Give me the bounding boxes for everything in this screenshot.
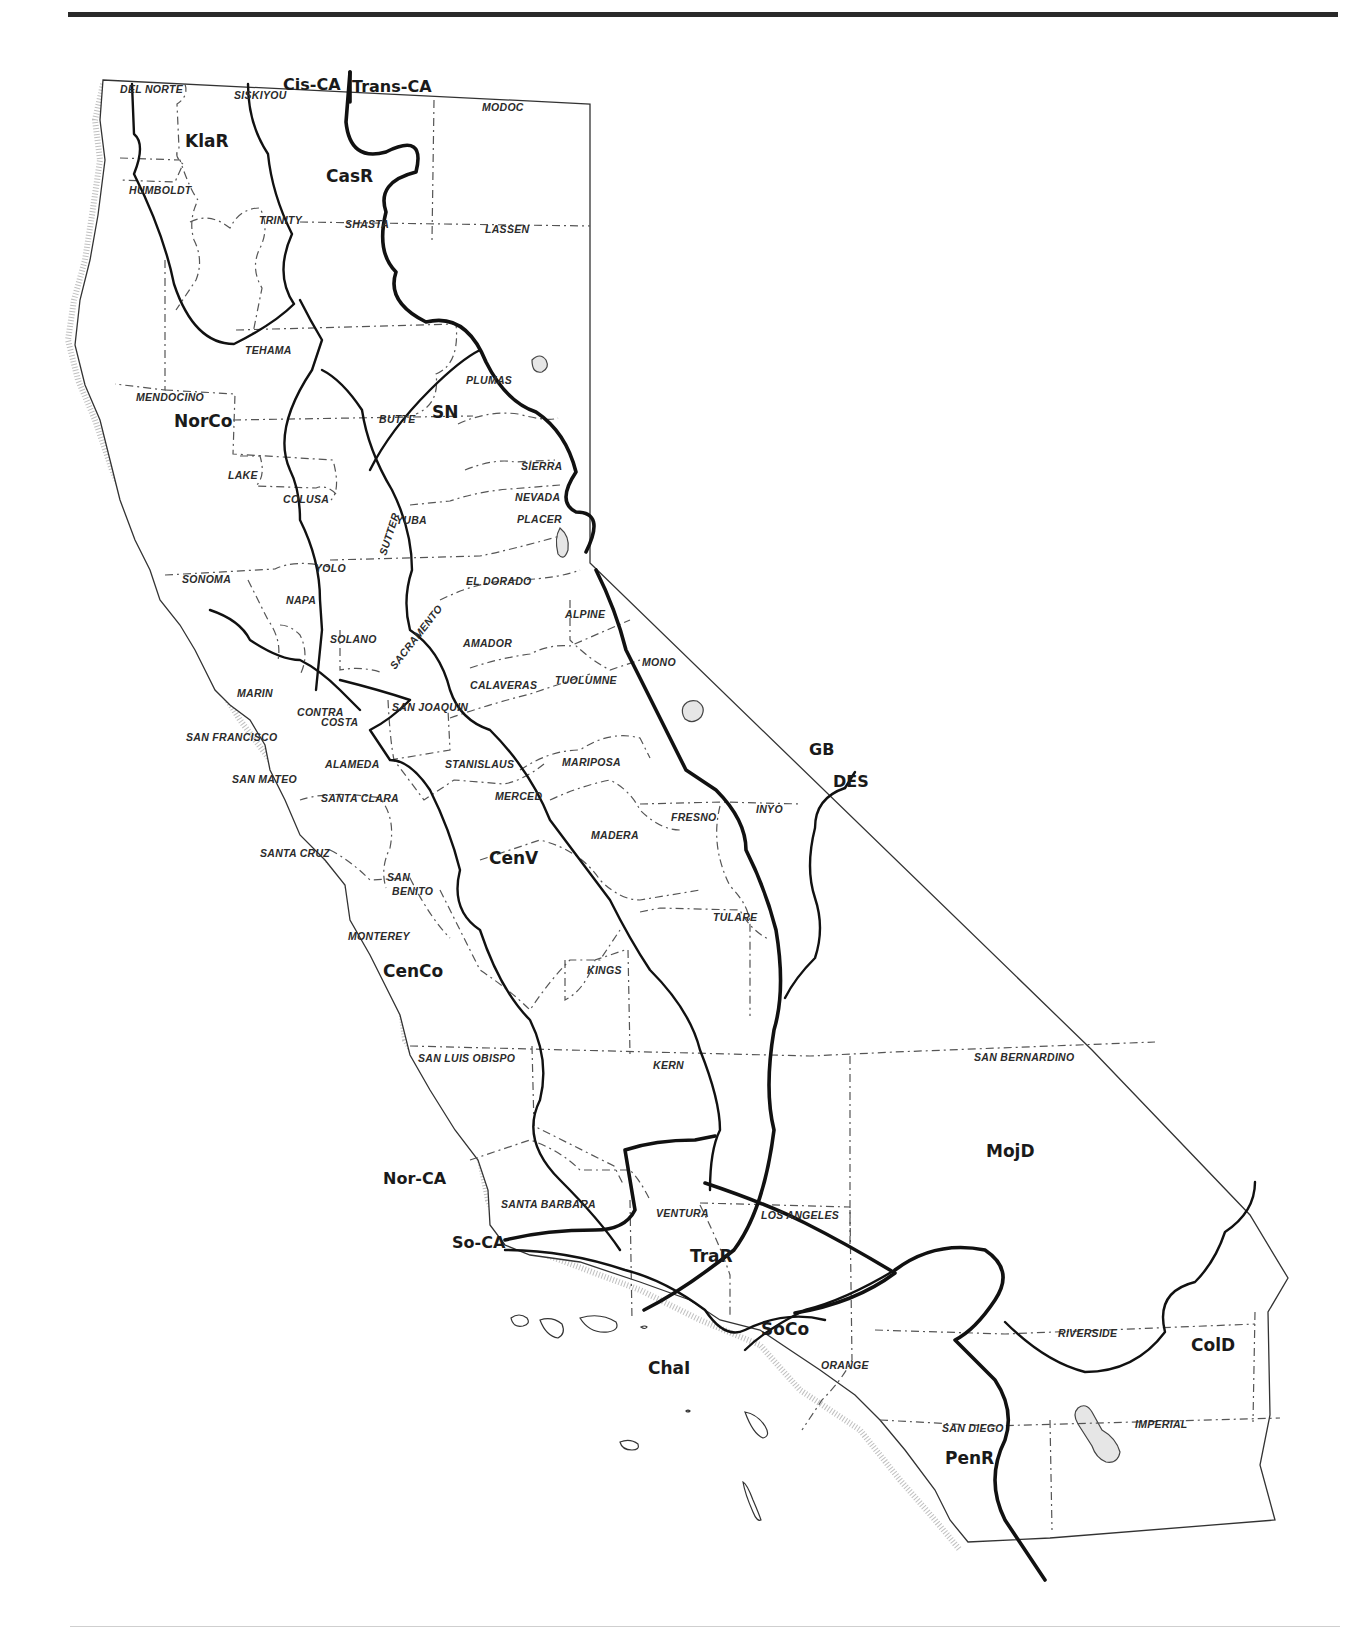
county-label: INYO <box>756 803 783 815</box>
county-label: DEL NORTE <box>120 83 184 95</box>
region-label-cold: ColD <box>1191 1335 1235 1355</box>
region-label-mojd: MojD <box>986 1141 1035 1161</box>
county-label: STANISLAUS <box>445 758 514 770</box>
county-label: NAPA <box>286 594 316 606</box>
county-label: MENDOCINO <box>136 391 204 403</box>
mono-lake <box>682 701 703 722</box>
california-map: DEL NORTE SISKIYOU MODOC HUMBOLDT TRINIT… <box>0 0 1372 1633</box>
county-label: SOLANO <box>330 633 377 645</box>
region-label-norco: NorCo <box>174 411 232 431</box>
county-label: SAN BERNARDINO <box>974 1051 1074 1063</box>
county-label: SANTA BARBARA <box>501 1198 596 1210</box>
county-label: SONOMA <box>182 573 231 585</box>
county-label: SAN DIEGO <box>942 1422 1004 1434</box>
county-label: PLACER <box>517 513 562 525</box>
region-label-casr: CasR <box>326 166 373 186</box>
county-label: PLUMAS <box>466 374 512 386</box>
island-santa-catalina <box>745 1412 768 1438</box>
county-label: NEVADA <box>515 491 560 503</box>
county-label: MADERA <box>591 829 639 841</box>
division-label-cis-ca: Cis-CA <box>283 75 341 94</box>
division-label-so-ca: So-CA <box>452 1233 506 1252</box>
county-label: KERN <box>653 1059 684 1071</box>
county-label: MARIPOSA <box>562 756 621 768</box>
division-label-nor-ca: Nor-CA <box>383 1169 447 1188</box>
county-label: BUTTE <box>379 413 416 425</box>
county-label: LAKE <box>228 469 258 481</box>
county-label: VENTURA <box>656 1207 709 1219</box>
county-label: CALAVERAS <box>470 679 537 691</box>
island-santa-barbara <box>686 1410 690 1412</box>
county-label: ALAMEDA <box>324 758 380 770</box>
county-label: SIERRA <box>521 460 562 472</box>
county-label: LASSEN <box>485 223 530 235</box>
county-label: HUMBOLDT <box>129 184 193 196</box>
division-label-gb: GB <box>809 740 834 759</box>
bottom-page-rule <box>70 1626 1340 1627</box>
county-label: LOS ANGELES <box>761 1209 839 1221</box>
county-label: COLUSA <box>283 493 329 505</box>
county-label: COSTA <box>321 716 358 728</box>
island-santa-cruz <box>580 1316 617 1332</box>
region-label-penr: PenR <box>945 1448 994 1468</box>
region-label-cenv: CenV <box>489 848 539 868</box>
county-label: SISKIYOU <box>234 89 287 101</box>
county-label: SAN MATEO <box>232 773 297 785</box>
island-san-nicolas <box>620 1440 638 1450</box>
county-label: YOLO <box>315 562 346 574</box>
region-label-trar: TraR <box>690 1246 733 1266</box>
county-label: TRINITY <box>259 214 303 226</box>
division-label-trans-ca: Trans-CA <box>352 77 432 96</box>
county-label: SAN <box>387 871 410 883</box>
county-label: IMPERIAL <box>1135 1418 1188 1430</box>
county-label: MONO <box>642 656 676 668</box>
island-san-clemente <box>743 1482 761 1520</box>
region-label-soco: SoCo <box>761 1319 809 1339</box>
county-label: ORANGE <box>821 1359 870 1371</box>
island-san-miguel <box>511 1315 528 1326</box>
county-label: SHASTA <box>345 218 389 230</box>
county-label: SAN LUIS OBISPO <box>418 1052 515 1064</box>
county-label: EL DORADO <box>466 575 532 587</box>
county-label: SANTA CLARA <box>321 792 399 804</box>
county-label: MONTEREY <box>348 930 411 942</box>
region-label-klar: KlaR <box>185 131 229 151</box>
region-label-cenco: CenCo <box>383 961 443 981</box>
county-label: AMADOR <box>462 637 512 649</box>
region-label-chai: ChaI <box>648 1358 690 1378</box>
county-label: TULARE <box>713 911 758 923</box>
division-label-des: DES <box>833 772 869 791</box>
county-label: KINGS <box>587 964 622 976</box>
county-label: SAN JOAQUIN <box>392 701 468 713</box>
county-label: MARIN <box>237 687 273 699</box>
county-label: FRESNO <box>671 811 717 823</box>
island-santa-rosa <box>540 1319 563 1338</box>
county-label: RIVERSIDE <box>1058 1327 1118 1339</box>
region-label-sn: SN <box>432 402 458 422</box>
county-label: MERCED <box>495 790 542 802</box>
county-label: SANTA CRUZ <box>260 847 330 859</box>
lake-almanor <box>532 356 547 372</box>
county-label: SAN FRANCISCO <box>186 731 277 743</box>
county-label: BENITO <box>392 885 433 897</box>
county-label: TUOLUMNE <box>555 674 618 686</box>
county-label: TEHAMA <box>245 344 292 356</box>
island-anacapa <box>641 1326 647 1329</box>
county-label: ALPINE <box>564 608 606 620</box>
county-label: MODOC <box>482 101 524 113</box>
